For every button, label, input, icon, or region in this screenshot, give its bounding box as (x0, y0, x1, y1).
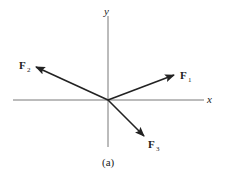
vector-f3-label: F 3 (148, 138, 160, 153)
svg-text:F: F (180, 69, 187, 81)
vector-f2-arrow (36, 67, 108, 100)
svg-text:1: 1 (188, 76, 192, 84)
svg-text:F: F (148, 138, 155, 150)
vector-f1-arrow (108, 75, 174, 100)
x-axis-label: x (206, 93, 212, 105)
svg-text:3: 3 (156, 145, 160, 153)
vector-f2-label: F 2 (19, 59, 31, 74)
figure-caption: (a) (102, 156, 115, 169)
svg-text:F: F (19, 59, 26, 71)
vector-f1-label: F 1 (180, 69, 192, 84)
svg-text:2: 2 (27, 66, 31, 74)
y-axis-label: y (103, 5, 109, 17)
force-diagram: x y F 1 F 2 F 3 (a) (0, 0, 227, 179)
vector-f3-arrow (108, 100, 144, 136)
